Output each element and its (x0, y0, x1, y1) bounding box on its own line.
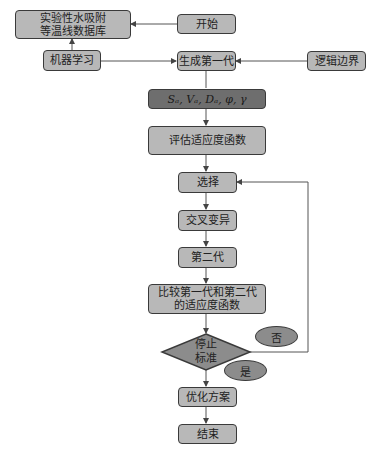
machine-learning-label: 机器学习 (50, 54, 94, 67)
selection-box: 选择 (178, 172, 237, 193)
optimize-label: 优化方案 (186, 391, 230, 404)
evaluate-fitness-box: 评估适应度函数 (148, 126, 266, 155)
first-generation-box: 生成第一代 (177, 51, 236, 71)
logic-boundary-label: 逻辑边界 (315, 55, 359, 68)
variables-box: Sₐ, Vₐ, Dₐ, φ, γ (148, 89, 266, 109)
crossover-mutation-box: 交叉变异 (178, 210, 237, 231)
end-label: 结束 (197, 428, 219, 441)
database-box: 实验性水吸附 等温线数据库 (15, 10, 131, 39)
stop-label-line2: 标准 (186, 352, 226, 366)
variables-label: Sₐ, Vₐ, Dₐ, φ, γ (168, 93, 247, 106)
end-box: 结束 (178, 424, 237, 444)
no-label: 否 (271, 329, 282, 345)
no-branch-label: 否 (255, 326, 298, 347)
compare-label-line2: 的适应度函数 (174, 299, 240, 312)
crossover-mutation-label: 交叉变异 (186, 214, 230, 227)
compare-label-line1: 比较第一代和第二代 (158, 286, 257, 299)
logic-boundary-box: 逻辑边界 (307, 51, 366, 71)
yes-label: 是 (240, 363, 251, 379)
second-generation-label: 第二代 (191, 251, 224, 264)
database-label-line2: 等温线数据库 (40, 25, 106, 38)
stop-label-line1: 停止 (186, 338, 226, 352)
database-label-line1: 实验性水吸附 (40, 12, 106, 25)
start-label: 开始 (196, 18, 218, 31)
start-box: 开始 (177, 14, 236, 34)
second-generation-box: 第二代 (178, 247, 237, 268)
compare-fitness-box: 比较第一代和第二代 的适应度函数 (148, 284, 266, 314)
stop-criteria-label: 停止 标准 (186, 338, 226, 366)
yes-branch-label: 是 (224, 360, 267, 381)
machine-learning-box: 机器学习 (43, 50, 101, 71)
evaluate-fitness-label: 评估适应度函数 (169, 134, 246, 147)
selection-label: 选择 (197, 176, 219, 189)
optimize-box: 优化方案 (178, 387, 237, 407)
first-generation-label: 生成第一代 (179, 55, 234, 68)
